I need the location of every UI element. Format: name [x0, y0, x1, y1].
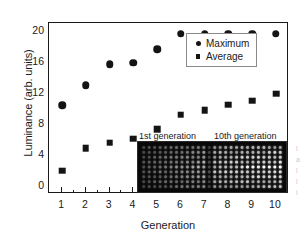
data-point-maximum: [58, 102, 66, 110]
inset-pixel-array: [138, 142, 286, 192]
edge-text-line: l: [296, 143, 305, 154]
legend-item-maximum: Maximum: [192, 37, 249, 50]
data-point-average: [59, 167, 66, 174]
x-tick-mark-minor: [97, 190, 98, 194]
inset-caption-first-generation: 1st generation: [139, 131, 196, 141]
data-point-average: [201, 107, 208, 114]
data-point-average: [130, 136, 137, 143]
chart-legend: Maximum Average: [186, 33, 257, 67]
y-tick-label: 16: [14, 55, 44, 67]
edge-text-line: i: [296, 187, 305, 198]
x-tick-label: 4: [119, 198, 145, 210]
y-tick-label: 20: [14, 24, 44, 36]
x-tick-mark: [132, 187, 133, 193]
data-point-average: [249, 97, 256, 104]
inset-caption-tenth-generation: 10th generation: [214, 131, 277, 141]
edge-text-line: l: [296, 176, 305, 187]
x-tick-label: 10: [262, 198, 288, 210]
circle-marker-icon: [192, 41, 204, 46]
x-tick-mark: [61, 187, 62, 193]
x-tick-label: 1: [48, 198, 74, 210]
y-tick-label: 8: [14, 117, 44, 129]
x-axis-title: Generation: [48, 219, 288, 231]
x-tick-mark: [109, 187, 110, 193]
y-axis-title: Luminance (arb. units): [22, 13, 34, 193]
x-tick-mark-minor: [120, 190, 121, 194]
data-point-maximum: [153, 46, 161, 54]
data-point-maximum: [272, 30, 280, 38]
data-point-average: [225, 101, 232, 108]
x-tick-label: 7: [191, 198, 217, 210]
data-point-maximum: [82, 81, 90, 89]
data-point-average: [106, 139, 113, 146]
data-point-maximum: [130, 59, 138, 67]
x-tick-label: 5: [143, 198, 169, 210]
x-tick-label: 6: [167, 198, 193, 210]
data-point-average: [273, 90, 280, 97]
y-tick-label: 4: [14, 148, 44, 160]
x-tick-label: 3: [96, 198, 122, 210]
y-tick-label: 0: [14, 179, 44, 191]
legend-label-maximum: Maximum: [206, 37, 249, 50]
square-marker-icon: [192, 54, 204, 59]
inset-photograph: [137, 141, 287, 193]
data-point-maximum: [106, 60, 114, 68]
figure-panel: Luminance (arb. units) 048121620 1234567…: [0, 0, 305, 241]
legend-label-average: Average: [206, 50, 243, 63]
edge-text-line: l: [296, 165, 305, 176]
x-tick-label: 8: [214, 198, 240, 210]
x-tick-label: 2: [72, 198, 98, 210]
y-tick-label: 12: [14, 86, 44, 98]
data-point-maximum: [177, 30, 185, 38]
x-tick-mark-minor: [73, 190, 74, 194]
x-tick-mark: [85, 187, 86, 193]
data-point-average: [178, 111, 185, 118]
legend-item-average: Average: [192, 50, 249, 63]
data-point-average: [83, 145, 90, 152]
edge-marginal-text: lalli: [296, 143, 305, 198]
edge-text-line: a: [296, 154, 305, 165]
x-tick-label: 9: [238, 198, 264, 210]
